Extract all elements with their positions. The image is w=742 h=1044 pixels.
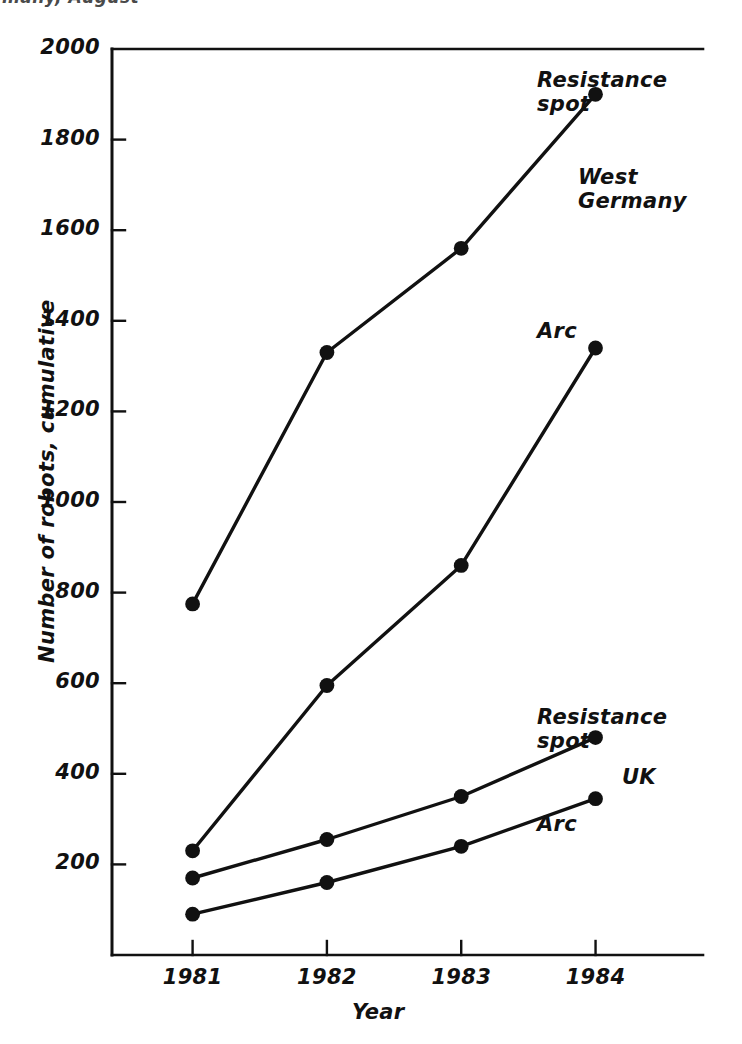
region-label-west-germany: West Germany bbox=[578, 165, 687, 213]
x-tick-label-1982: 1982 bbox=[287, 965, 367, 989]
region-label-line2: Germany bbox=[578, 189, 687, 213]
data-point bbox=[185, 843, 200, 858]
data-point bbox=[588, 791, 603, 806]
series-line bbox=[193, 738, 596, 878]
data-point bbox=[454, 558, 469, 573]
data-point bbox=[320, 832, 335, 847]
data-point bbox=[588, 341, 603, 356]
data-point bbox=[454, 789, 469, 804]
series-label-line1: Arc bbox=[537, 812, 577, 836]
data-point bbox=[320, 678, 335, 693]
data-point bbox=[454, 241, 469, 256]
series-label-line1: Resistance bbox=[537, 705, 667, 729]
y-axis-title-wrapper: Number of robots, cumulative bbox=[35, 333, 59, 663]
series-label-uk-arc: Arc bbox=[537, 812, 577, 836]
data-point bbox=[185, 871, 200, 886]
region-label-uk: UK bbox=[622, 765, 656, 789]
y-tick-label-200: 200 bbox=[8, 850, 100, 874]
x-tick-label-1984: 1984 bbox=[556, 965, 636, 989]
data-series-group bbox=[185, 87, 603, 922]
series-label-wg-arc: Arc bbox=[537, 319, 577, 343]
y-tick-label-2000: 2000 bbox=[8, 35, 100, 59]
series-west-germany-arc bbox=[185, 341, 603, 859]
line-chart-figure: 200400600800100012001400160018002000 198… bbox=[0, 0, 742, 1044]
series-west-germany-resistance-spot bbox=[185, 87, 603, 611]
y-tick-label-600: 600 bbox=[8, 669, 100, 693]
y-tick-label-1600: 1600 bbox=[8, 216, 100, 240]
series-label-uk-resistance-spot: Resistance spot bbox=[537, 705, 667, 753]
series-label-line1: Arc bbox=[537, 319, 577, 343]
region-label-line1: West bbox=[578, 165, 687, 189]
data-point bbox=[185, 907, 200, 922]
series-label-wg-resistance-spot: Resistance spot bbox=[537, 68, 667, 116]
region-label-line1: UK bbox=[622, 765, 656, 789]
y-axis-title: Number of robots, cumulative bbox=[35, 300, 59, 663]
y-tick-label-400: 400 bbox=[8, 760, 100, 784]
series-line bbox=[193, 799, 596, 915]
series-uk-arc bbox=[185, 791, 603, 921]
series-label-line2: spot bbox=[537, 92, 667, 116]
series-uk-resistance-spot bbox=[185, 730, 603, 885]
y-tick-label-1800: 1800 bbox=[8, 126, 100, 150]
plot-canvas bbox=[0, 0, 742, 1044]
data-point bbox=[320, 345, 335, 360]
series-line bbox=[193, 94, 596, 604]
data-point bbox=[320, 875, 335, 890]
series-label-line2: spot bbox=[537, 729, 667, 753]
series-label-line1: Resistance bbox=[537, 68, 667, 92]
data-point bbox=[454, 839, 469, 854]
chart-page: many, August 200400600800100012001400160… bbox=[0, 0, 742, 1044]
x-axis-title: Year bbox=[352, 1000, 404, 1024]
tick-marks-group bbox=[112, 140, 596, 955]
x-tick-label-1983: 1983 bbox=[421, 965, 501, 989]
series-line bbox=[193, 348, 596, 851]
x-tick-label-1981: 1981 bbox=[153, 965, 233, 989]
data-point bbox=[185, 597, 200, 612]
